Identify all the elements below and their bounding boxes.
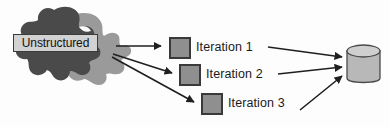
diagram-canvas: Unstructured Iteration 1 Iteration 2 Ite… (0, 0, 389, 127)
iteration-label-3: Iteration 3 (228, 97, 285, 110)
unstructured-label-text: Unstructured (22, 36, 90, 50)
iteration-swatch-3 (202, 94, 222, 114)
iteration-label-2: Iteration 2 (206, 68, 263, 81)
unstructured-label-box: Unstructured (13, 34, 98, 52)
connector-iteration-1-to-database (268, 47, 342, 57)
iteration-swatch-1 (170, 38, 190, 58)
iteration-swatch-2 (180, 65, 200, 85)
diagram-graphics (0, 0, 389, 127)
database-cylinder-icon (347, 45, 380, 83)
iteration-label-1: Iteration 1 (196, 41, 253, 54)
connector-iteration-2-to-database (278, 67, 342, 74)
database-top (347, 45, 380, 57)
connector-iteration-3-to-database (300, 76, 342, 110)
